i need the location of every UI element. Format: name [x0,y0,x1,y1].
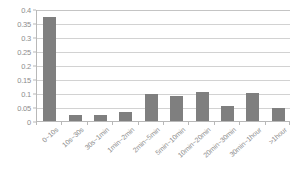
plot-area [36,10,290,122]
y-axis-tick-label: 0.05 [17,104,31,113]
bar [221,106,234,121]
bar-series [37,10,290,121]
x-axis-tick-label: 0~10s [14,126,59,168]
y-axis-tick-label: 0.15 [17,76,31,85]
bar-chart: 00.050.10.150.20.250.30.350.4 0~10s10s~3… [0,0,296,174]
y-axis-tick-label: 0.2 [21,62,31,71]
y-axis-tick-label: 0.25 [17,48,31,57]
bar [145,94,158,121]
bar [272,108,285,121]
bar [196,92,209,121]
y-axis: 00.050.10.150.20.250.30.350.4 [0,0,36,132]
bar [246,93,259,121]
x-axis-labels: 0~10s10s~30s30s~1min1min~2min2min~5min5m… [0,120,296,174]
bar [170,96,183,121]
y-axis-tick-label: 0.35 [17,20,31,29]
bar [43,17,56,121]
y-axis-tick-label: 0.3 [21,34,31,43]
y-axis-tick-label: 0.1 [21,90,31,99]
y-axis-tick-label: 0.4 [21,6,31,15]
